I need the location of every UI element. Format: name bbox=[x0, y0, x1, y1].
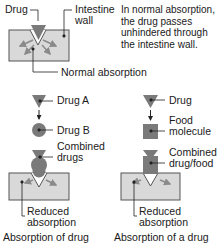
normal-absorption-label: Normal absorption bbox=[61, 67, 147, 78]
normal-absorption-diagram bbox=[9, 10, 72, 72]
drug-a-label: Drug A bbox=[57, 95, 89, 106]
intestine-wall-label: Intestine wall bbox=[75, 4, 115, 26]
drug-b-label: Drug B bbox=[57, 125, 90, 136]
combined-drugs-label: Combined drugs bbox=[57, 141, 105, 163]
food-molecule-label: Food molecule bbox=[169, 115, 211, 137]
normal-absorption-description: In normal absorption, the drug passes un… bbox=[121, 4, 215, 50]
description-line: the intestine wall. bbox=[121, 39, 215, 51]
reduced-line2: absorption bbox=[139, 217, 188, 228]
drug-label-right: Drug bbox=[169, 95, 192, 106]
combined-drugs-line2: drugs bbox=[57, 152, 105, 163]
combined-drug-food-line2: drug/food bbox=[169, 158, 217, 169]
reduced-absorption-label-left: Reduced absorption bbox=[27, 206, 76, 228]
description-line: In normal absorption, bbox=[121, 4, 215, 16]
combined-drug-food-label: Combined drug/food bbox=[169, 147, 217, 169]
food-line2: molecule bbox=[169, 126, 211, 137]
drug-label: Drug bbox=[5, 4, 28, 15]
reduced-line2: absorption bbox=[27, 217, 76, 228]
reduced-absorption-label-right: Reduced absorption bbox=[139, 206, 188, 228]
caption-drug-drug: Absorption of drug bbox=[3, 232, 89, 243]
description-line: the drug passes bbox=[121, 16, 215, 28]
caption-drug-food: Absorption of a drug bbox=[114, 232, 209, 243]
description-line: unhindered through bbox=[121, 27, 215, 39]
intestine-wall-label-line2: wall bbox=[75, 15, 115, 26]
